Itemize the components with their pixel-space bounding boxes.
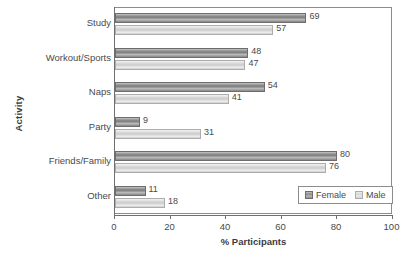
bar-value-label: 31 xyxy=(204,127,214,137)
legend-label-male: Male xyxy=(366,190,386,200)
bar-chart: Activity Study6957Workout/Sports4847Naps… xyxy=(0,0,418,258)
legend: Female Male xyxy=(298,186,393,204)
male-swatch-icon xyxy=(355,191,363,199)
x-axis-title: % Participants xyxy=(114,236,393,247)
bar-value-label: 41 xyxy=(232,92,242,102)
bar-male xyxy=(115,129,201,139)
bar-female xyxy=(115,186,146,196)
category-label: Study xyxy=(87,17,111,28)
bar-female xyxy=(115,82,265,92)
bar-value-label: 11 xyxy=(149,184,158,194)
bar-female xyxy=(115,13,306,23)
x-tick-label: 100 xyxy=(384,221,400,232)
x-tick xyxy=(114,215,115,219)
category-row: Workout/Sports4847 xyxy=(0,43,418,78)
x-tick-label: 40 xyxy=(220,221,231,232)
x-tick-label: 20 xyxy=(164,221,175,232)
bar-female xyxy=(115,48,248,58)
category-label: Naps xyxy=(89,86,111,97)
bar-value-label: 76 xyxy=(329,161,339,171)
category-label: Other xyxy=(87,190,111,201)
x-tick xyxy=(170,215,171,219)
bar-male xyxy=(115,94,229,104)
category-label: Workout/Sports xyxy=(46,52,111,63)
bar-male xyxy=(115,198,165,208)
x-tick-label: 60 xyxy=(275,221,286,232)
category-label: Party xyxy=(89,121,111,132)
bar-value-label: 47 xyxy=(248,58,258,68)
x-tick xyxy=(392,215,393,219)
x-tick-label: 0 xyxy=(111,221,116,232)
bar-value-label: 57 xyxy=(276,23,286,33)
bar-value-label: 18 xyxy=(168,196,178,206)
bar-female xyxy=(115,151,337,161)
bar-value-label: 54 xyxy=(268,80,278,90)
category-row: Friends/Family8076 xyxy=(0,146,418,181)
legend-label-female: Female xyxy=(316,190,346,200)
bar-value-label: 48 xyxy=(251,46,261,56)
category-row: Party931 xyxy=(0,112,418,147)
legend-item-female: Female xyxy=(305,190,346,200)
bar-female xyxy=(115,117,140,127)
category-row: Study6957 xyxy=(0,8,418,43)
female-swatch-icon xyxy=(305,191,313,199)
bar-male xyxy=(115,60,245,70)
bar-male xyxy=(115,163,326,173)
x-axis-line xyxy=(114,215,393,216)
x-tick-label: 80 xyxy=(331,221,342,232)
bar-value-label: 9 xyxy=(143,115,148,125)
bar-value-label: 80 xyxy=(340,149,350,159)
legend-item-male: Male xyxy=(355,190,386,200)
x-tick xyxy=(281,215,282,219)
category-label: Friends/Family xyxy=(49,155,111,166)
bar-value-label: 69 xyxy=(309,11,319,21)
bar-male xyxy=(115,25,273,35)
category-row: Naps5441 xyxy=(0,77,418,112)
x-tick xyxy=(225,215,226,219)
x-tick xyxy=(336,215,337,219)
